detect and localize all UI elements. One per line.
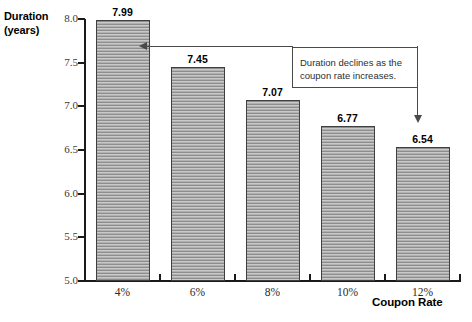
duration-vs-coupon-rate-bar-chart: Duration (years) 8.07.57.06.56.05.55.0 7… (0, 0, 472, 322)
y-tick-mark (78, 18, 85, 20)
y-tick-label: 7.0 (48, 100, 78, 111)
bar-value-label: 6.77 (313, 112, 383, 124)
bar-6pct (171, 67, 225, 281)
y-tick-label: 6.0 (48, 188, 78, 199)
annotation-text-line-2: coupon rate increases. (300, 69, 414, 82)
x-tick-mark (159, 274, 161, 282)
bar-value-label: 6.54 (388, 133, 458, 145)
y-tick-label: 5.0 (48, 275, 78, 286)
annotation-arrowhead-left-icon (139, 42, 147, 50)
y-tick-label: 6.5 (48, 144, 78, 155)
x-tick-mark (234, 274, 236, 282)
bar-4pct (96, 20, 150, 281)
y-tick-mark (78, 105, 85, 107)
annotation-arrowhead-down-icon (414, 115, 422, 123)
y-tick-label: 8.0 (48, 13, 78, 24)
bar-value-label: 7.07 (238, 86, 308, 98)
y-tick-mark (78, 149, 85, 151)
y-tick-label: 7.5 (48, 57, 78, 68)
bar-value-label: 7.99 (88, 6, 158, 18)
y-tick-mark (78, 62, 85, 64)
y-axis-title-line-2: (years) (4, 24, 39, 36)
y-axis-title-line-1: Duration (4, 10, 48, 22)
x-tick-label: 8% (238, 286, 308, 298)
y-tick-mark (78, 280, 85, 282)
bar-value-label: 7.45 (163, 53, 233, 65)
annotation-leader-left (145, 46, 293, 47)
y-tick-mark (78, 236, 85, 238)
bar-8pct (246, 100, 300, 281)
annotation-callout-box: Duration declines as the coupon rate inc… (292, 47, 418, 88)
y-tick-label: 5.5 (48, 231, 78, 242)
bar-12pct (396, 147, 450, 281)
x-tick-mark (384, 274, 386, 282)
x-tick-mark (459, 274, 461, 282)
x-tick-label: 6% (163, 286, 233, 298)
annotation-text-line-1: Duration declines as the (300, 56, 414, 69)
y-tick-mark (78, 193, 85, 195)
x-tick-label: 4% (88, 286, 158, 298)
annotation-leader-down (417, 88, 418, 117)
x-tick-mark (309, 274, 311, 282)
x-axis-title: Coupon Rate (372, 296, 442, 308)
bar-10pct (321, 126, 375, 281)
